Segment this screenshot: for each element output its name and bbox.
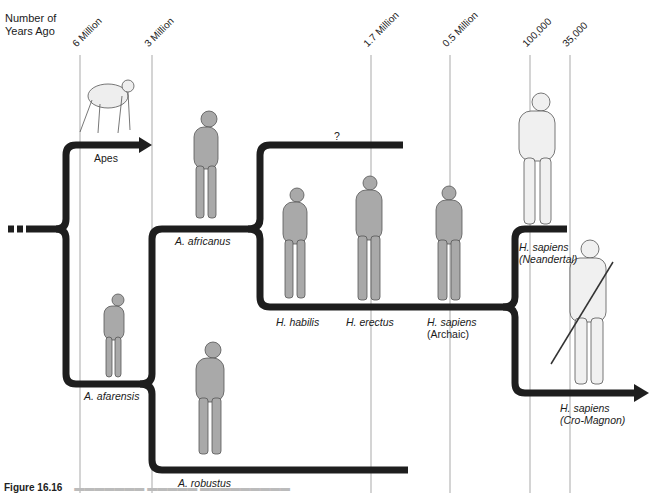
- ape-figure-icon: [80, 80, 134, 133]
- label-habilis: H. habilis: [276, 316, 319, 328]
- cromagnon-arrowhead-icon: [634, 384, 649, 402]
- label-unknown: ?: [334, 130, 340, 142]
- robustus-figure-icon: [196, 342, 224, 454]
- figures: [80, 80, 613, 454]
- erectus-figure-icon: [356, 176, 382, 300]
- africanus-figure-icon: [194, 111, 218, 218]
- label-sapiens-archaic: H. sapiens (Archaic): [427, 316, 477, 340]
- neandertal-figure-icon: [519, 93, 555, 224]
- neandertal-line1: H. sapiens: [519, 241, 577, 253]
- habilis-figure-icon: [283, 188, 307, 298]
- cromagnon-line2: (Cro-Magnon): [560, 414, 625, 426]
- label-afarensis: A. afarensis: [84, 390, 139, 402]
- label-neandertal: H. sapiens (Neandertal): [519, 241, 577, 265]
- figure-caption: Figure 16.16▬▬▬▬▬▬▬ ▬▬▬▬▬ ▬▬▬▬▬▬▬▬▬: [4, 482, 290, 493]
- axis-title-line2: Years Ago: [5, 25, 56, 38]
- neandertal-line2: (Neandertal): [519, 253, 577, 265]
- branch-apes: [26, 145, 140, 229]
- label-apes: Apes: [94, 152, 118, 164]
- branch-africanus: [140, 229, 248, 384]
- branch-robustus: [140, 384, 408, 470]
- sapiens-archaic-line2: (Archaic): [427, 328, 477, 340]
- archaic-sapiens-figure-icon: [436, 186, 462, 300]
- sapiens-archaic-line1: H. sapiens: [427, 316, 477, 328]
- axis-title: Number of Years Ago: [5, 12, 56, 38]
- afarensis-figure-icon: [104, 294, 124, 377]
- cromagnon-line1: H. sapiens: [560, 402, 625, 414]
- caption-text-faded: ▬▬▬▬▬▬▬ ▬▬▬▬▬ ▬▬▬▬▬▬▬▬▬: [74, 482, 290, 493]
- label-africanus: A. africanus: [175, 235, 230, 247]
- caption-label: Figure 16.16: [4, 482, 62, 493]
- label-erectus: H. erectus: [346, 316, 394, 328]
- label-cromagnon: H. sapiens (Cro-Magnon): [560, 402, 625, 426]
- branch-afarensis: [56, 229, 140, 384]
- axis-title-line1: Number of: [5, 12, 56, 25]
- apes-arrowhead-icon: [139, 137, 152, 153]
